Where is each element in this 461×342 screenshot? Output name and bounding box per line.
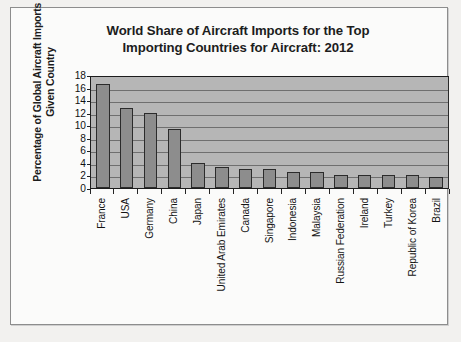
y-tick-label: 8 (67, 134, 86, 144)
bar-slot (234, 77, 258, 188)
bar (358, 175, 371, 188)
chart-outer-frame: World Share of Aircraft Imports for the … (10, 7, 448, 325)
bar-slot (281, 77, 305, 188)
plot-area (90, 76, 449, 189)
x-label-slot: France (90, 198, 114, 318)
bar (96, 84, 109, 188)
bar (429, 177, 442, 188)
x-label-slot: China (162, 198, 186, 318)
x-tick-mark (90, 189, 114, 194)
x-axis-labels: FranceUSAGermanyChinaJapanUnited Arab Em… (90, 198, 449, 318)
bar-slot (162, 77, 186, 188)
x-label-slot: USA (114, 198, 138, 318)
y-tick-label: 2 (67, 171, 86, 181)
bar-slot (186, 77, 210, 188)
x-tick-label: Brazil (432, 198, 442, 223)
y-tick-label: 12 (67, 109, 86, 119)
y-tick-label: 16 (67, 84, 86, 94)
chart-title-line-1: World Share of Aircraft Imports for the … (53, 22, 423, 39)
x-tick-mark (162, 189, 186, 194)
x-label-slot: Russian Federation (329, 198, 353, 318)
y-tick-label: 18 (67, 71, 86, 81)
x-label-slot: Malaysia (305, 198, 329, 318)
x-label-slot: Ireland (353, 198, 377, 318)
bar-slot (377, 77, 401, 188)
bar (406, 175, 419, 188)
bar (239, 169, 252, 188)
x-tick-label: United Arab Emirates (217, 198, 227, 291)
x-tick-mark (186, 189, 210, 194)
x-tick-label: China (169, 198, 179, 224)
bar (382, 175, 395, 188)
bar (310, 172, 323, 188)
bar (287, 172, 300, 188)
x-tick-label: Turkey (384, 198, 394, 228)
chart-title-line-2: Importing Countries for Aircraft: 2012 (53, 39, 423, 56)
bar-slot (424, 77, 448, 188)
bar-slot (115, 77, 139, 188)
x-tick-mark (377, 189, 401, 194)
bar (144, 113, 157, 188)
bar (215, 167, 228, 188)
x-tick-label: Singapore (265, 198, 275, 243)
bar-slot (305, 77, 329, 188)
chart-title: World Share of Aircraft Imports for the … (53, 22, 423, 56)
x-label-slot: Singapore (258, 198, 282, 318)
bar-slot (353, 77, 377, 188)
x-tick-label: Indonesia (288, 198, 298, 241)
x-tick-mark (425, 189, 449, 194)
bar (168, 129, 181, 188)
x-tick-mark (305, 189, 329, 194)
x-tick-mark (401, 189, 425, 194)
bar-slot (400, 77, 424, 188)
x-tick-mark (282, 189, 306, 194)
x-label-slot: Germany (138, 198, 162, 318)
bar (120, 108, 133, 188)
x-tick-mark (258, 189, 282, 194)
x-axis-ticks (90, 189, 449, 194)
x-tick-mark (114, 189, 138, 194)
y-tick-label: 10 (67, 121, 86, 131)
y-axis-title-line-1: Percentage of Global Aircraft Imports of… (31, 0, 45, 182)
x-tick-label: Germany (145, 198, 155, 239)
y-tick-label: 4 (67, 159, 86, 169)
x-tick-mark (353, 189, 377, 194)
y-tick-label: 6 (67, 146, 86, 156)
x-label-slot: Japan (186, 198, 210, 318)
x-tick-label: Russian Federation (336, 198, 346, 284)
x-label-slot: Republic of Korea (401, 198, 425, 318)
y-tick-label: 0 (67, 184, 86, 194)
bar-slot (258, 77, 282, 188)
x-label-slot: Brazil (425, 198, 449, 318)
x-label-slot: Turkey (377, 198, 401, 318)
bar (191, 163, 204, 188)
bar-slot (329, 77, 353, 188)
bar-slot (91, 77, 115, 188)
x-tick-mark (234, 189, 258, 194)
y-axis-ticks: 181614121086420 (67, 76, 86, 189)
x-tick-label: USA (121, 198, 131, 218)
x-tick-label: Ireland (360, 198, 370, 228)
x-tick-mark (329, 189, 353, 194)
y-tick-label: 14 (67, 96, 86, 106)
x-tick-mark (138, 189, 162, 194)
x-tick-label: Malaysia (312, 198, 322, 237)
bar (334, 175, 347, 188)
x-label-slot: Indonesia (282, 198, 306, 318)
bar-slot (139, 77, 163, 188)
x-tick-mark (210, 189, 234, 194)
x-tick-label: Republic of Korea (408, 198, 418, 277)
plot-wrapper: 181614121086420 (67, 76, 453, 201)
bar-slot (210, 77, 234, 188)
x-tick-label: Japan (193, 198, 203, 225)
bar (263, 169, 276, 188)
x-tick-label: France (97, 198, 107, 229)
x-label-slot: United Arab Emirates (210, 198, 234, 318)
x-label-slot: Canada (234, 198, 258, 318)
bar-series (91, 77, 448, 188)
x-tick-label: Canada (241, 198, 251, 233)
